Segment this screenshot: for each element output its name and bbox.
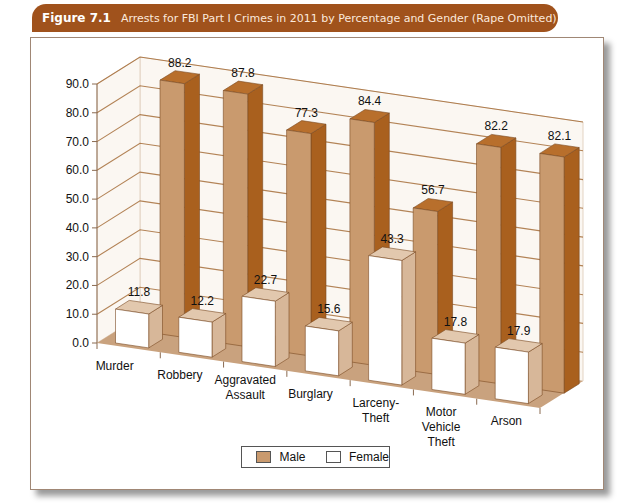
y-tick-label: 90.0 (66, 77, 90, 91)
value-label: 43.3 (380, 232, 404, 246)
value-label: 82.1 (548, 129, 572, 143)
category-label: Burglary (288, 387, 333, 401)
y-tick-label: 70.0 (66, 135, 90, 149)
category-label: Motor (426, 405, 457, 419)
value-label: 56.7 (421, 183, 445, 197)
chart-legend: Male Female (241, 446, 390, 468)
bar-female (432, 338, 465, 394)
bar-female (305, 326, 338, 376)
value-label: 77.3 (295, 106, 319, 120)
value-label: 22.7 (254, 273, 278, 287)
value-label: 88.2 (168, 56, 192, 70)
category-label: Assault (226, 388, 266, 402)
category-label: Murder (96, 359, 134, 373)
y-tick-label: 50.0 (66, 192, 90, 206)
category-label: Vehicle (422, 420, 461, 434)
value-label: 15.6 (317, 302, 341, 316)
y-tick-label: 20.0 (66, 278, 90, 292)
y-tick-label: 40.0 (66, 221, 90, 235)
bar-female (242, 296, 275, 366)
bar-female-side (465, 335, 479, 395)
bar-male-side (564, 148, 579, 394)
value-label: 82.2 (485, 119, 509, 133)
bar-female-side (402, 252, 416, 385)
value-label: 17.9 (507, 324, 531, 338)
bar-female (179, 317, 212, 357)
bar-male (540, 153, 564, 393)
bar-female-side (275, 293, 289, 367)
bar-female-side (339, 322, 353, 376)
y-tick-label: 0.0 (72, 336, 89, 350)
y-tick-label: 10.0 (66, 307, 90, 321)
category-label: Theft (427, 435, 455, 449)
y-tick-label: 60.0 (66, 163, 90, 177)
bar-female (116, 309, 149, 348)
category-label: Aggravated (215, 373, 276, 387)
value-label: 11.8 (128, 285, 151, 299)
y-tick-label: 30.0 (66, 250, 90, 264)
y-tick-label: 80.0 (66, 106, 90, 120)
bar-male (287, 130, 311, 356)
category-label: Arson (491, 414, 522, 428)
value-label: 87.8 (231, 66, 255, 80)
legend-swatch-male (256, 451, 271, 463)
legend-label-female: Female (349, 450, 389, 464)
legend-swatch-female (326, 451, 341, 463)
bar-female (495, 347, 528, 403)
category-label: Theft (362, 411, 390, 425)
value-label: 17.8 (444, 315, 468, 329)
bar-female-side (528, 344, 542, 404)
value-label: 84.4 (358, 94, 382, 108)
category-label: Larceny- (352, 396, 399, 410)
bar-female (369, 256, 402, 386)
category-label: Robbery (157, 368, 202, 382)
value-label: 12.2 (191, 294, 215, 308)
legend-label-male: Male (279, 450, 305, 464)
bar-male (160, 80, 184, 337)
chart-3d-bar: 0.010.020.030.040.050.060.070.080.090.08… (0, 0, 633, 504)
